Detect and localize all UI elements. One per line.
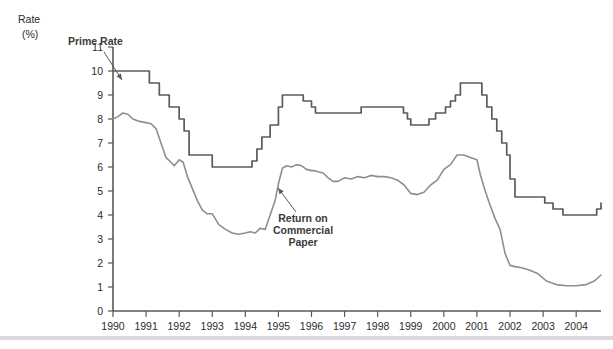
y-axis-tick-label: 3 (97, 233, 103, 245)
y-axis-title-line2: (%) (22, 28, 38, 40)
y-axis-title-line1: Rate (18, 13, 40, 25)
x-axis-tick-label: 2003 (531, 320, 555, 332)
y-axis-tick-label: 10 (91, 65, 103, 77)
x-axis-tick-label: 1992 (167, 320, 191, 332)
y-axis-tick-label: 7 (97, 137, 103, 149)
x-axis-tick-label: 1996 (300, 320, 324, 332)
y-axis-tick-label: 9 (97, 89, 103, 101)
y-axis-tick-label: 8 (97, 113, 103, 125)
x-axis-tick-label: 1997 (333, 320, 357, 332)
commercial-paper-annotation-label: Commercial (273, 224, 333, 236)
y-axis-tick-label: 2 (97, 257, 103, 269)
y-axis-tick-label: 6 (97, 161, 103, 173)
x-axis-tick-label: 2001 (465, 320, 489, 332)
footer-divider (0, 336, 613, 340)
x-axis-tick-label: 2004 (565, 320, 589, 332)
x-axis-tick-label: 2002 (498, 320, 522, 332)
y-axis-tick-label: 5 (97, 185, 103, 197)
x-axis-tick-label: 1995 (267, 320, 291, 332)
x-axis-tick-label: 1991 (134, 320, 158, 332)
commercial-paper-annotation-label: Return on (278, 212, 328, 224)
prime-rate-annotation-label: Prime Rate (68, 35, 123, 47)
y-axis-tick-label: 4 (97, 209, 103, 221)
rate-chart: Rate (%) 01234567891011 1990199119921993… (0, 0, 613, 349)
commercial-paper-annotation-label: Paper (288, 236, 317, 248)
y-axis-tick-label: 0 (97, 305, 103, 317)
x-axis-tick-label: 1993 (201, 320, 225, 332)
chart-canvas: Rate (%) 01234567891011 1990199119921993… (0, 0, 613, 349)
x-axis-tick-label: 1994 (234, 320, 258, 332)
x-axis-tick-label: 2000 (432, 320, 456, 332)
x-axis-tick-label: 1990 (101, 320, 125, 332)
x-axis-tick-label: 1999 (399, 320, 423, 332)
y-axis-tick-label: 1 (97, 281, 103, 293)
x-axis-tick-label: 1998 (366, 320, 390, 332)
